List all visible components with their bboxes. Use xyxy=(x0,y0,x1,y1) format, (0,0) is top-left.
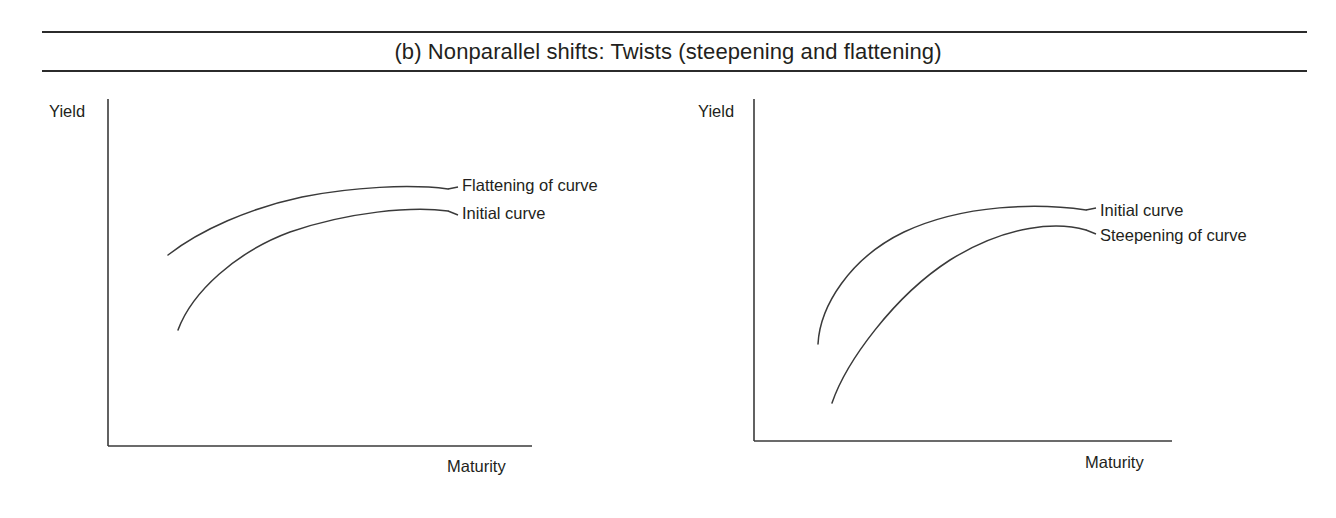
leader-line-steepening xyxy=(1086,230,1096,234)
curve-label-initial-curve: Initial curve xyxy=(462,203,545,223)
curve-label-initial-curve: Initial curve xyxy=(1100,200,1183,220)
curve-initial xyxy=(178,209,448,330)
curve-label-flattening-of-curve: Flattening of curve xyxy=(462,175,598,195)
leader-line-flattening xyxy=(448,187,458,189)
curve-label-steepening-of-curve: Steepening of curve xyxy=(1100,225,1247,245)
title-rule-top xyxy=(42,31,1307,33)
y-axis-label: Yield xyxy=(49,101,85,121)
y-axis-label: Yield xyxy=(698,101,734,121)
title-rule-bottom xyxy=(42,70,1307,72)
panel-title: (b) Nonparallel shifts: Twists (steepeni… xyxy=(0,38,1336,66)
x-axis-label: Maturity xyxy=(447,456,506,476)
leader-line-initial xyxy=(1086,208,1096,210)
curve-flattening-of-curve xyxy=(168,187,448,255)
leader-line-initial xyxy=(448,211,458,215)
chart-flattening: Yield Maturity Flattening of curve Initi… xyxy=(40,92,600,492)
x-axis-label: Maturity xyxy=(1085,452,1144,472)
chart-steepening: Yield Maturity Initial curve Steepening … xyxy=(686,92,1306,492)
figure-panel: (b) Nonparallel shifts: Twists (steepeni… xyxy=(0,0,1336,518)
